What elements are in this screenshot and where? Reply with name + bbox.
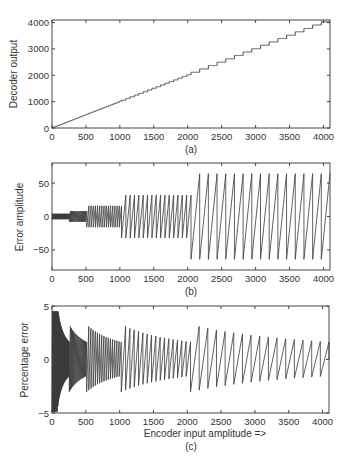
error-amplitude-line (52, 174, 330, 260)
x-tick-label: 4000 (313, 131, 334, 142)
y-tick-label: 5 (44, 301, 49, 312)
y-tick-label: 0 (44, 211, 49, 222)
x-tick-label: 2000 (177, 131, 198, 142)
decoder-output-line (52, 22, 330, 128)
y-tick-label: 2000 (28, 70, 49, 81)
y-tick-label: −5 (38, 408, 49, 419)
y-tick-label: 4000 (28, 17, 49, 28)
figure: 0500100015002000250030003500400001000200… (0, 0, 349, 464)
x-tick-label: 0 (49, 416, 54, 427)
x-axis-label-c: Encoder input amplitude => (144, 428, 266, 439)
panel-b-error-amplitude: 05001000150020002500300035004000−50050 E… (14, 163, 334, 297)
caption-b: (b) (185, 286, 197, 297)
y-axis-label-b: Error amplitude (14, 182, 25, 251)
y-tick-label: 3000 (28, 43, 49, 54)
x-tick-label: 3000 (245, 273, 266, 284)
x-tick-label: 2500 (211, 131, 232, 142)
x-tick-label: 2000 (177, 273, 198, 284)
caption-c: (c) (185, 441, 197, 452)
y-tick-label: 0 (44, 354, 49, 365)
x-tick-label: 2000 (177, 416, 198, 427)
axis-ticks-a: 0500100015002000250030003500400001000200… (28, 17, 334, 142)
x-tick-label: 1000 (109, 416, 130, 427)
y-tick-label: 50 (38, 178, 49, 189)
caption-a: (a) (185, 144, 197, 155)
y-tick-label: 0 (44, 123, 49, 134)
percentage-error-line (52, 311, 329, 412)
x-tick-label: 1000 (109, 131, 130, 142)
panel-a-decoder-output: 0500100015002000250030003500400001000200… (8, 17, 334, 155)
x-tick-label: 3500 (279, 273, 300, 284)
x-tick-label: 500 (78, 273, 94, 284)
x-tick-label: 3000 (245, 131, 266, 142)
y-axis-label-a: Decoder output (8, 40, 19, 109)
x-tick-label: 0 (49, 273, 54, 284)
x-tick-label: 4000 (312, 416, 333, 427)
x-tick-label: 4000 (313, 273, 334, 284)
x-tick-label: 3500 (278, 416, 299, 427)
x-tick-label: 1500 (143, 416, 164, 427)
x-tick-label: 500 (78, 416, 94, 427)
x-tick-label: 3500 (279, 131, 300, 142)
x-tick-label: 0 (49, 131, 54, 142)
x-tick-label: 500 (78, 131, 94, 142)
y-tick-label: 1000 (28, 96, 49, 107)
x-tick-label: 3000 (244, 416, 265, 427)
x-tick-label: 2500 (211, 273, 232, 284)
y-tick-label: −50 (33, 244, 49, 255)
x-tick-label: 2500 (210, 416, 231, 427)
cropped-caption-fragment (8, 456, 68, 462)
x-tick-label: 1500 (143, 131, 164, 142)
y-axis-label-c: Percentage error (19, 322, 30, 398)
panel-c-percentage-error: 05001000150020002500300035004000−505 Per… (19, 301, 333, 453)
x-tick-label: 1500 (143, 273, 164, 284)
x-tick-label: 1000 (109, 273, 130, 284)
